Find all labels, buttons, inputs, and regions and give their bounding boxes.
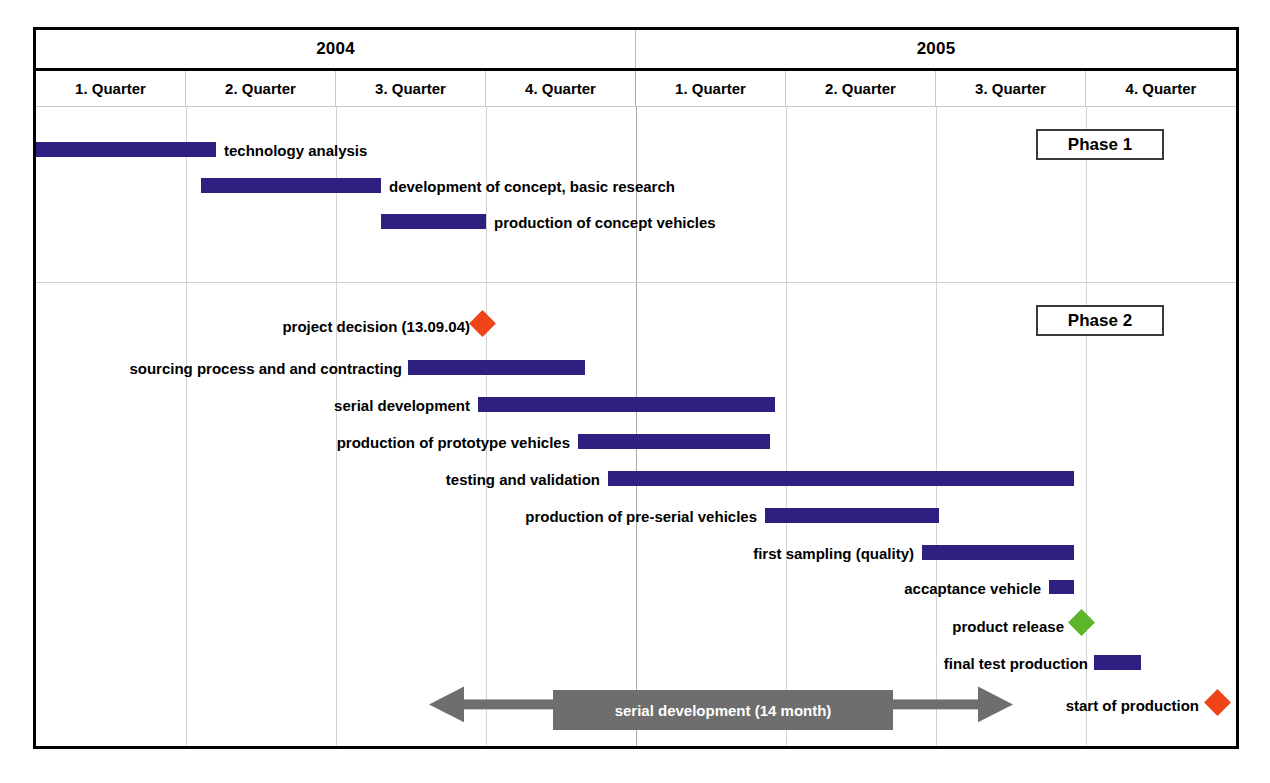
task-label-technology-analysis: technology analysis — [224, 143, 367, 158]
phase-box-2: Phase 2 — [1036, 305, 1164, 336]
bar-testing-and-validation — [608, 471, 1074, 486]
bar-development-of-concept — [201, 178, 381, 193]
task-label-production-of-prototype-vehicles: production of prototype vehicles — [36, 435, 570, 450]
quarter-header-2004-q2: 2. Quarter — [186, 71, 336, 106]
bar-production-of-pre-serial-vehicles — [765, 508, 939, 523]
quarter-header-2004-q3: 3. Quarter — [336, 71, 486, 106]
task-label-final-test-production: final test production — [36, 656, 1088, 671]
bar-final-test-production — [1094, 655, 1141, 670]
bar-production-of-concept-vehicles — [381, 214, 486, 229]
gridline-year-boundary — [636, 107, 637, 746]
gridline-q2-q3-2004 — [336, 107, 337, 746]
milestone-diamond-project-decision — [469, 310, 496, 337]
phase-box-1: Phase 1 — [1036, 129, 1164, 160]
phase-divider — [36, 282, 1236, 283]
milestone-diamond-product-release — [1068, 609, 1095, 636]
chart-frame: 2004 2005 1. Quarter 2. Quarter 3. Quart… — [33, 27, 1239, 749]
year-header-2005: 2005 — [636, 30, 1236, 68]
quarter-header-row: 1. Quarter 2. Quarter 3. Quarter 4. Quar… — [36, 71, 1236, 107]
gantt-chart-page: 2004 2005 1. Quarter 2. Quarter 3. Quart… — [0, 0, 1270, 783]
task-label-accaptance-vehicle: accaptance vehicle — [36, 581, 1041, 596]
bar-technology-analysis — [36, 142, 216, 157]
task-label-production-of-pre-serial-vehicles: production of pre-serial vehicles — [36, 509, 757, 524]
year-header-row: 2004 2005 — [36, 30, 1236, 71]
bar-accaptance-vehicle — [1049, 580, 1074, 594]
task-label-project-decision: project decision (13.09.04) — [36, 319, 470, 334]
quarter-header-2004-q1: 1. Quarter — [36, 71, 186, 106]
task-label-production-of-concept-vehicles: production of concept vehicles — [494, 215, 716, 230]
quarter-header-2004-q4: 4. Quarter — [486, 71, 636, 106]
quarter-header-2005-q1: 1. Quarter — [636, 71, 786, 106]
gridline-q1-q2-2005 — [786, 107, 787, 746]
gridline-q3-q4-2005 — [1086, 107, 1087, 746]
year-header-2004: 2004 — [36, 30, 636, 68]
bar-sourcing-process — [408, 360, 585, 375]
bar-first-sampling — [922, 545, 1074, 560]
bar-production-of-prototype-vehicles — [578, 434, 770, 449]
quarter-header-2005-q4: 4. Quarter — [1086, 71, 1236, 106]
gridline-q1-q2-2004 — [186, 107, 187, 746]
gantt-plot-area: Phase 1 Phase 2 technology analysis deve… — [36, 107, 1236, 746]
task-label-first-sampling: first sampling (quality) — [36, 546, 914, 561]
task-label-development-of-concept: development of concept, basic research — [389, 179, 675, 194]
task-label-testing-and-validation: testing and validation — [36, 472, 600, 487]
gridline-q3-q4-2004 — [486, 107, 487, 746]
task-label-product-release: product release — [36, 619, 1064, 634]
bar-serial-development — [478, 397, 775, 412]
quarter-header-2005-q3: 3. Quarter — [936, 71, 1086, 106]
task-label-sourcing-process: sourcing process and and contracting — [36, 361, 402, 376]
task-label-start-of-production: start of production — [36, 698, 1199, 713]
milestone-diamond-start-of-production — [1204, 689, 1231, 716]
gridline-q2-q3-2005 — [936, 107, 937, 746]
task-label-serial-development: serial development — [36, 398, 470, 413]
quarter-header-2005-q2: 2. Quarter — [786, 71, 936, 106]
